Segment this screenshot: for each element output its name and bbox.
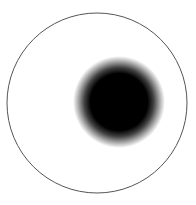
blurred-dot — [73, 56, 165, 148]
figure — [0, 0, 196, 205]
